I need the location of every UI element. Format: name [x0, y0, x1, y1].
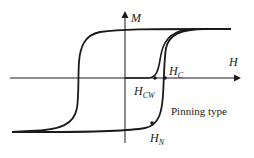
hn-point [150, 121, 154, 125]
hc-label: HC [168, 64, 184, 80]
hysteresis-diagram: M H HC HCW HN Pinning type [0, 0, 254, 158]
m-axis-label: M [130, 11, 142, 25]
hcw-point [153, 76, 157, 80]
h-axis-arrow-icon [234, 75, 241, 82]
virgin-curve [125, 29, 208, 78]
hn-label: HN [149, 131, 165, 147]
hcw-label: HCW [133, 84, 156, 100]
hc-point [163, 76, 167, 80]
h-axis-label: H [228, 55, 239, 69]
m-axis-arrow-icon [122, 11, 129, 18]
pinning-type-annotation: Pinning type [171, 105, 227, 117]
